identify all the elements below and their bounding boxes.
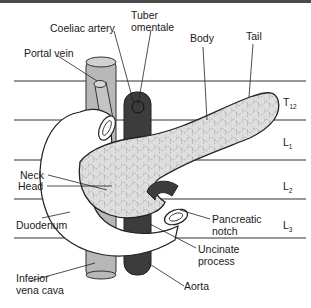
label-inferior-vena-cava-2: vena cava xyxy=(16,284,64,296)
label-pancreatic-notch-2: notch xyxy=(212,225,238,237)
level-l1: L1 xyxy=(283,136,293,150)
label-tuber-omentale: Tuber xyxy=(131,9,159,21)
label-aorta: Aorta xyxy=(184,280,209,292)
label-portal-vein: Portal vein xyxy=(24,47,74,59)
level-l2: L2 xyxy=(283,180,293,194)
label-uncinate-process-2: process xyxy=(198,255,235,267)
label-pancreatic-notch: Pancreatic xyxy=(212,213,262,225)
pancreas-anatomy-diagram: Coeliac artery Tuber omentale Portal vei… xyxy=(0,0,311,308)
label-tuber-omentale-2: omentale xyxy=(131,21,174,33)
level-l3: L3 xyxy=(283,219,293,233)
vertebral-level-labels: T12 L1 L2 L3 xyxy=(283,96,297,233)
top-border xyxy=(0,0,311,3)
label-coeliac-artery: Coeliac artery xyxy=(50,22,116,34)
label-uncinate-process: Uncinate xyxy=(198,243,240,255)
label-body: Body xyxy=(190,32,215,44)
label-head: Head xyxy=(18,180,43,192)
level-t12: T12 xyxy=(283,96,297,110)
label-tail: Tail xyxy=(246,30,262,42)
label-inferior-vena-cava: Inferior xyxy=(16,272,49,284)
label-duodenum: Duodenum xyxy=(16,219,68,231)
